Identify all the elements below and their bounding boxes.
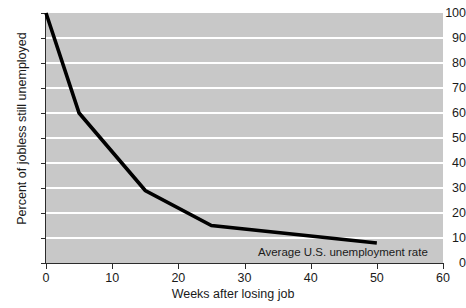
series-line-jobless — [46, 13, 377, 243]
x-axis-title: Weeks after losing job — [0, 288, 466, 301]
data-series — [0, 0, 466, 308]
y-axis-title: Percent of jobless still unemployed — [16, 19, 29, 239]
unemployment-duration-chart: 1009080706050403020100 0102030405060 Ave… — [0, 0, 466, 308]
annotation-average-unemployment-rate: Average U.S. unemployment rate — [258, 246, 428, 258]
